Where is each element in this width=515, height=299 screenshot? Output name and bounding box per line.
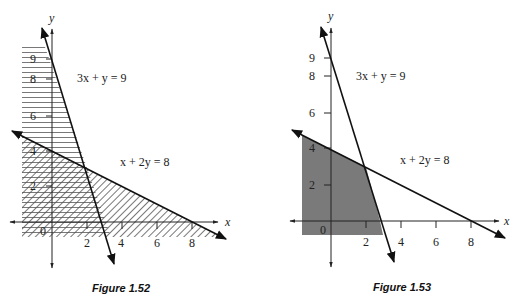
x-axis-label: x bbox=[224, 215, 231, 229]
figures-canvas: x y 2 4 6 8 0 2 4 6 8 9 3x + y = 9 x bbox=[0, 0, 515, 299]
y-tick-6: 6 bbox=[309, 106, 315, 120]
x-tick-4: 4 bbox=[118, 236, 124, 250]
caption-figure-1-53: Figure 1.53 bbox=[373, 281, 431, 293]
origin-label: 0 bbox=[320, 223, 326, 237]
x-tick-4: 4 bbox=[398, 235, 404, 249]
x-tick-6: 6 bbox=[433, 235, 439, 249]
y-tick-6: 6 bbox=[30, 109, 36, 123]
x-axis-label: x bbox=[503, 214, 510, 228]
label-3x-y-9: 3x + y = 9 bbox=[77, 71, 127, 85]
y-tick-2: 2 bbox=[309, 178, 315, 192]
x-tick-8: 8 bbox=[189, 236, 195, 250]
y-tick-8: 8 bbox=[30, 72, 36, 86]
y-axis-label: y bbox=[327, 9, 334, 23]
y-tick-4: 4 bbox=[30, 144, 36, 158]
x-tick-6: 6 bbox=[154, 236, 160, 250]
y-tick-9: 9 bbox=[309, 51, 315, 65]
figure-1-53: x y 2 4 6 8 0 2 4 6 8 9 3x + y = 9 x bbox=[290, 9, 510, 293]
label-x-2y-8: x + 2y = 8 bbox=[400, 153, 450, 167]
caption-figure-1-52: Figure 1.52 bbox=[92, 282, 150, 294]
x-tick-2: 2 bbox=[363, 235, 369, 249]
x-tick-8: 8 bbox=[468, 235, 474, 249]
y-tick-9: 9 bbox=[30, 52, 36, 66]
y-tick-8: 8 bbox=[309, 69, 315, 83]
y-tick-2: 2 bbox=[30, 179, 36, 193]
origin-label: 0 bbox=[40, 224, 46, 238]
y-axis-label: y bbox=[48, 11, 55, 25]
label-3x-y-9: 3x + y = 9 bbox=[356, 69, 406, 83]
figure-1-52: x y 2 4 6 8 0 2 4 6 8 9 3x + y = 9 x bbox=[10, 11, 231, 294]
x-tick-2: 2 bbox=[84, 236, 90, 250]
label-x-2y-8: x + 2y = 8 bbox=[120, 155, 170, 169]
y-tick-4: 4 bbox=[309, 141, 315, 155]
